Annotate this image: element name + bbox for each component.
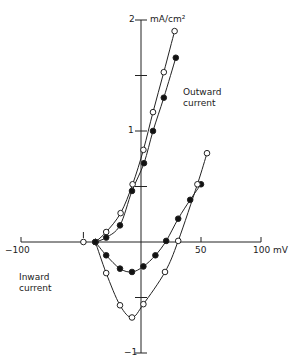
data-point-filled	[141, 160, 147, 166]
y-tick-label-neg1: −1	[124, 347, 137, 358]
data-point-open	[129, 315, 135, 321]
data-point-open	[195, 181, 201, 187]
data-point-open	[172, 28, 178, 34]
data-point-filled	[175, 216, 181, 222]
y-tick-label-1: 1	[128, 125, 134, 136]
x-tick-label-neg100: −100	[5, 245, 30, 256]
data-point-open	[162, 269, 168, 275]
data-point-filled	[117, 266, 123, 272]
inward-label-line1: Inward	[19, 272, 51, 283]
data-point-open	[103, 270, 109, 276]
data-point-filled	[129, 269, 135, 275]
data-markers	[81, 28, 210, 320]
data-point-filled	[150, 128, 156, 134]
data-point-filled	[173, 55, 179, 61]
data-point-open	[204, 150, 210, 156]
inward-current-label: Inward current	[19, 272, 51, 294]
data-point-filled	[103, 253, 109, 259]
data-point-filled	[93, 239, 99, 245]
data-point-filled	[129, 188, 135, 194]
data-point-filled	[163, 238, 169, 244]
inward-label-line2: current	[19, 283, 51, 294]
data-curves	[95, 31, 207, 317]
data-point-open	[118, 210, 124, 216]
data-point-open	[175, 238, 181, 244]
data-point-filled	[117, 223, 123, 229]
outward-label-line1: Outward	[183, 87, 221, 98]
data-point-filled	[103, 235, 109, 241]
x-tick-label-50: 50	[195, 245, 206, 256]
iv-curve-chart	[0, 0, 296, 362]
data-point-open	[141, 147, 147, 153]
data-point-filled	[141, 264, 147, 270]
data-point-open	[81, 239, 87, 245]
data-point-open	[103, 229, 109, 235]
data-point-filled	[153, 253, 159, 259]
data-point-open	[141, 301, 147, 307]
data-point-open	[117, 302, 123, 308]
data-point-open	[161, 69, 167, 75]
x-tick-label-100: 100 mV	[253, 245, 288, 256]
data-point-filled	[187, 197, 193, 203]
outward-label-line2: current	[183, 98, 221, 109]
data-point-open	[150, 109, 156, 115]
data-point-open	[130, 181, 136, 187]
outward-current-label: Outward current	[183, 87, 221, 109]
y-unit-label: mA/cm²	[150, 14, 185, 25]
y-tick-label-2: 2	[129, 14, 135, 25]
data-point-filled	[161, 95, 167, 101]
